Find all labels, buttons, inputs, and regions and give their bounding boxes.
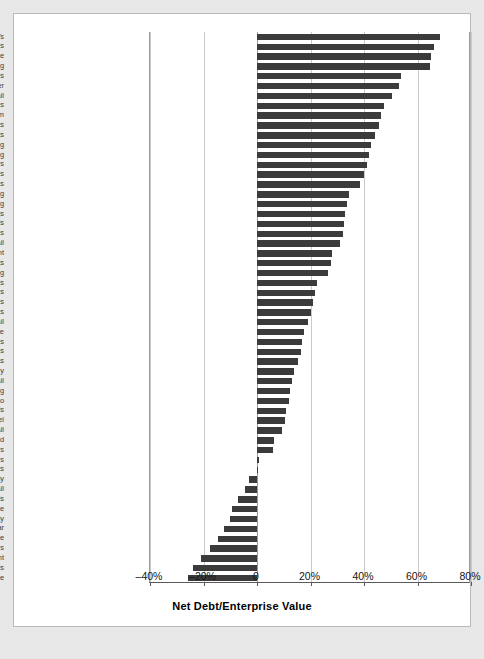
category-label: Food Retail	[0, 239, 4, 247]
tick-mark--40	[150, 582, 151, 586]
category-label: Wireless Telecomm	[0, 111, 4, 119]
bar	[257, 339, 302, 345]
bar	[201, 555, 257, 561]
category-label: Computer Peripherals	[0, 564, 4, 572]
bar	[257, 270, 328, 276]
category-label: Systems Software	[0, 534, 4, 542]
category-label: Cable and Satellite	[0, 52, 4, 60]
bar	[257, 34, 440, 40]
category-label: REITs	[0, 33, 4, 41]
plot-area	[149, 32, 470, 583]
bar	[257, 53, 431, 59]
bar	[232, 506, 257, 512]
category-label: Electronics Retail	[0, 426, 4, 434]
x-axis-title: Net Debt/Enterprise Value	[14, 600, 470, 612]
category-label: Internet Retail	[0, 485, 4, 493]
bar	[257, 63, 430, 69]
category-label: Home Furnishings	[0, 210, 4, 218]
bar	[257, 171, 364, 177]
category-label: Healthcare Services	[0, 347, 4, 355]
bar	[245, 486, 257, 492]
category-label: Paper Products	[0, 131, 4, 139]
bar	[257, 280, 317, 286]
bar	[257, 290, 315, 296]
category-label: Hotels and Resorts	[0, 121, 4, 129]
bar	[257, 112, 381, 118]
category-label: Casinos and Gaming	[0, 141, 4, 149]
bar	[257, 467, 258, 473]
category-label: Agricultural Products	[0, 279, 4, 287]
x-tick-label: –20%	[189, 570, 216, 582]
x-tick-label: 0	[253, 570, 259, 582]
bar	[257, 437, 274, 443]
bar	[257, 260, 331, 266]
category-label: Office Services and Supplies	[0, 229, 4, 237]
bar	[257, 191, 349, 197]
tick-mark-60	[418, 582, 419, 586]
bar	[257, 349, 301, 355]
category-label: Leisure Products	[0, 308, 4, 316]
bar	[257, 231, 343, 237]
bar	[257, 299, 313, 305]
bar	[257, 250, 332, 256]
category-label: Real Estate Services	[0, 101, 4, 109]
bar	[257, 162, 367, 168]
bar	[257, 417, 285, 423]
category-label: Integrated Oil and Gas	[0, 357, 4, 365]
category-label: Tobacco	[0, 397, 4, 405]
category-label: Oil and Gas Refining	[0, 151, 4, 159]
bars-layer	[150, 32, 469, 582]
category-label: Application Software	[0, 505, 4, 513]
bar	[257, 211, 345, 217]
category-label: All Industries	[0, 298, 4, 306]
tick-mark-20	[311, 582, 312, 586]
x-tick-label: 80%	[459, 570, 480, 582]
bar	[257, 457, 259, 463]
bar	[257, 398, 289, 404]
category-label: Apparel and Luxury Goods	[0, 406, 4, 414]
bar	[218, 536, 257, 542]
category-label: Trucking	[0, 269, 4, 277]
tick-mark--20	[204, 582, 205, 586]
bar	[257, 427, 282, 433]
x-tick-label: –40%	[136, 570, 163, 582]
bar	[257, 83, 399, 89]
category-label: Department Stores	[0, 170, 4, 178]
bar	[224, 526, 257, 532]
bar	[257, 44, 434, 50]
bar	[257, 378, 292, 384]
category-label: Broadcasting	[0, 62, 4, 70]
tick-mark-80	[471, 582, 472, 586]
category-label: Movies and Entertainment	[0, 249, 4, 257]
bar	[257, 201, 347, 207]
tick-mark-40	[364, 582, 365, 586]
bar	[238, 496, 257, 502]
category-label: Tires and Rubber	[0, 82, 4, 90]
category-label: Brewers	[0, 446, 4, 454]
category-label: Railroads	[0, 219, 4, 227]
bar	[257, 93, 392, 99]
bar	[257, 408, 286, 414]
x-tick-label: 60%	[406, 570, 427, 582]
bar	[257, 358, 298, 364]
bar	[249, 476, 257, 482]
category-label: Homebuilding	[0, 190, 4, 198]
tick-mark-0	[257, 582, 258, 586]
bar	[257, 122, 379, 128]
category-label: Biotechnology	[0, 515, 4, 523]
category-label: Industrial Machinery	[0, 367, 4, 375]
bar	[257, 368, 294, 374]
category-label: Industrial Conglomerates	[0, 338, 4, 346]
bar	[257, 319, 308, 325]
category-label: Health Care Technology	[0, 475, 4, 483]
bar	[257, 181, 360, 187]
category-label: Hypermarkets/Super Centers	[0, 456, 4, 464]
bar	[257, 142, 371, 148]
category-label: Semiconductors	[0, 544, 4, 552]
category-label: Gold	[0, 436, 4, 444]
category-label: Footwear	[0, 524, 4, 532]
bar	[257, 240, 340, 246]
category-label: Communications Equipment	[0, 554, 4, 562]
bar	[257, 329, 304, 335]
bar	[257, 309, 311, 315]
